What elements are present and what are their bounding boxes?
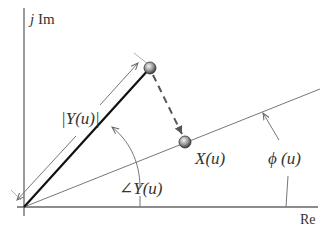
phase-tick (286, 176, 288, 207)
angle-label: ∠Y(u) (119, 180, 163, 197)
phasor-diagram: j Im Re |Y(u)| ∠Y(u) X(u) ϕ (u) (0, 0, 329, 232)
magnitude-dimension-upper (100, 63, 138, 105)
magnitude-tick-bottom (11, 190, 21, 200)
magnitude-label: |Y(u)| (61, 110, 100, 127)
projection-dashed-line (153, 75, 182, 134)
projection-label: X(u) (195, 150, 225, 167)
imaginary-j: j (30, 11, 34, 27)
imaginary-axis-label: j Im (30, 12, 55, 27)
phase-arrow (263, 113, 279, 140)
magnitude-tick-top (134, 53, 148, 64)
magnitude-dimension-lower (17, 136, 76, 200)
phase-reference-line (24, 89, 320, 207)
point-x (179, 136, 191, 148)
diagram-canvas (0, 0, 329, 232)
point-y (144, 62, 156, 74)
imaginary-im: Im (38, 11, 55, 27)
real-axis-label: Re (300, 213, 316, 227)
phase-label: ϕ (u) (268, 150, 301, 167)
